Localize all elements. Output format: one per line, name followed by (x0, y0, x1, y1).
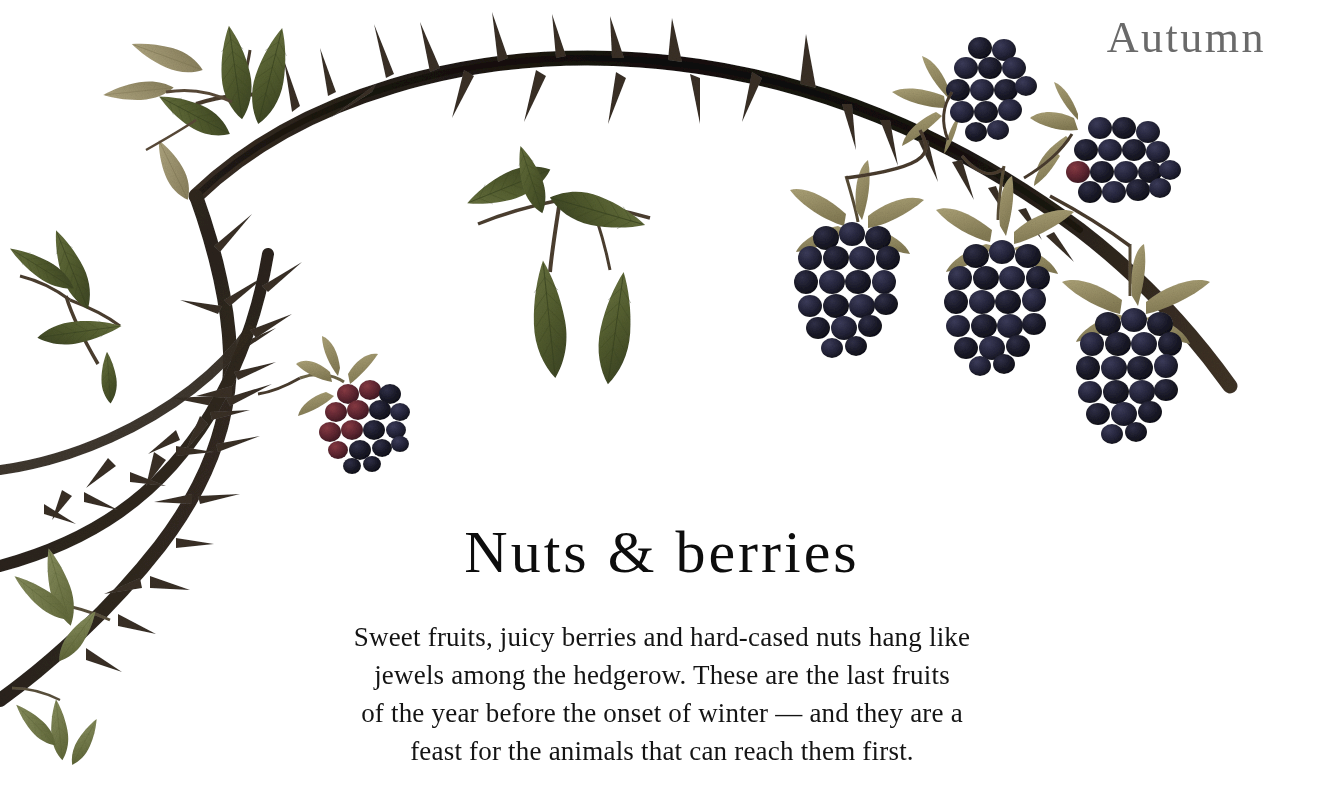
caption-block: Nuts & berries (0, 520, 1324, 770)
page-title: Nuts & berries (0, 520, 1324, 585)
berry-ripe-left (296, 336, 410, 474)
drupelets-left-berry (319, 380, 410, 474)
berry-ripe-far-right (1062, 244, 1210, 444)
caption-body: Sweet fruits, juicy berries and hard-cas… (232, 618, 1092, 770)
berry-ripe-center (790, 160, 924, 358)
title-underline-rule (427, 591, 897, 596)
drupelets-upper-right-cluster (1066, 117, 1181, 203)
berry-cluster-top (892, 37, 1037, 154)
berry-cluster-upper-right (1030, 82, 1181, 203)
caption-line-1: Sweet fruits, juicy berries and hard-cas… (232, 618, 1092, 656)
caption-line-2: jewels among the hedgerow. These are the… (232, 656, 1092, 694)
season-label: Autumn (1107, 16, 1266, 60)
page-root: Autumn Nuts & berries (0, 0, 1324, 788)
drupelets-top-cluster (946, 37, 1037, 142)
caption-line-3: of the year before the onset of winter —… (232, 694, 1092, 732)
leaf-cluster-center (462, 143, 650, 387)
caption-line-4: feast for the animals that can reach the… (232, 732, 1092, 770)
leaf-cluster-left (5, 226, 123, 404)
leaf-cluster-top-left (102, 24, 296, 204)
